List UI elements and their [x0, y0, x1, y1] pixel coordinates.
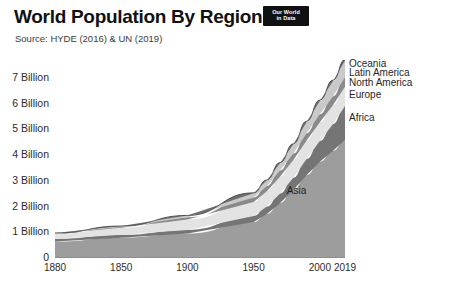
y-axis-tick-label: 4 Billion [3, 148, 49, 160]
series-label-asia: Asia [287, 185, 306, 196]
our-world-in-data-logo: Our World in Data [263, 6, 309, 26]
logo-line-2: in Data [276, 16, 295, 22]
x-axis-tick-label: 1950 [243, 262, 265, 273]
series-label-africa: Africa [349, 112, 375, 123]
y-axis-tick-label: 6 Billion [3, 97, 49, 109]
x-axis-tick-label: 2000 [309, 262, 331, 273]
page-title: World Population By Region [14, 6, 262, 28]
x-axis-tick-label: 2019 [334, 262, 356, 273]
x-axis-tick-label: 1880 [44, 262, 66, 273]
series-label-oceania: Oceania [349, 58, 386, 69]
plot-area [55, 60, 345, 258]
y-axis-tick-label: 2 Billion [3, 200, 49, 212]
y-axis-tick-label: 7 Billion [3, 71, 49, 83]
chart-root: World Population By Region Source: HYDE … [0, 0, 449, 290]
stacked-area-chart [55, 60, 345, 258]
x-axis-tick-label: 1900 [176, 262, 198, 273]
y-axis-tick-label: 5 Billion [3, 122, 49, 134]
series-label-north-america: North America [349, 77, 412, 88]
chart-source-note: Source: HYDE (2016) & UN (2019) [15, 33, 162, 44]
series-label-europe: Europe [349, 89, 381, 100]
y-axis-tick-label: 3 Billion [3, 174, 49, 186]
x-axis-line [55, 257, 345, 258]
y-axis-tick-label: 0 [3, 251, 49, 263]
y-axis-tick-label: 1 Billion [3, 225, 49, 237]
x-axis-tick-label: 1850 [110, 262, 132, 273]
